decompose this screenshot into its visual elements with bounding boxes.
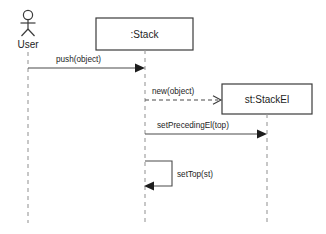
arrowhead-filled-icon [135, 64, 145, 73]
sequence-diagram-svg: User :Stack st:StackEl push(object) new(… [0, 0, 326, 234]
message-set-preceding-el-label: setPrecedingEl(top) [157, 121, 229, 130]
actor-stick-figure-icon [21, 10, 36, 36]
participant-stackel[interactable]: st:StackEl [222, 84, 312, 223]
arrowhead-filled-icon [257, 130, 267, 139]
message-set-top-self[interactable]: setTop(st) [144, 161, 213, 190]
message-set-preceding-el[interactable]: setPrecedingEl(top) [145, 121, 267, 138]
participant-user[interactable]: User [17, 10, 39, 223]
message-push-object[interactable]: push(object) [28, 55, 145, 72]
message-new-object[interactable]: new(object) [145, 87, 221, 104]
sequence-diagram-canvas: User :Stack st:StackEl push(object) new(… [0, 0, 326, 234]
participant-user-label: User [17, 39, 39, 50]
message-set-top-self-label: setTop(st) [177, 170, 213, 179]
message-push-object-label: push(object) [56, 55, 101, 64]
participant-stack-label: :Stack [131, 29, 160, 40]
message-set-top-self-line [145, 161, 172, 186]
participant-stackel-label: st:StackEl [245, 94, 289, 105]
message-new-object-label: new(object) [152, 87, 195, 96]
